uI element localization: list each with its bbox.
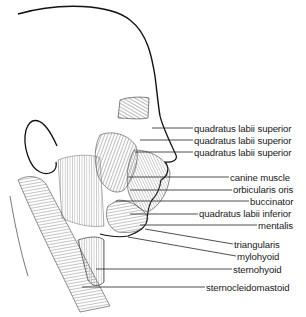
label-quadratus-labii-superior-1: quadratus labii superior	[194, 123, 291, 134]
label-quadratus-labii-inferior: quadratus labii inferior	[199, 208, 291, 219]
label-mylohyoid: mylohyoid	[237, 251, 279, 262]
label-quadratus-labii-superior-3: quadratus labii superior	[194, 147, 291, 158]
label-canine-muscle: canine muscle	[230, 172, 290, 183]
label-orbicularis-oris: orbicularis oris	[233, 184, 293, 195]
label-buccinator: buccinator	[250, 196, 293, 207]
label-sternohyoid: sternohyoid	[233, 264, 282, 275]
lip-muscles	[127, 150, 170, 212]
label-mentalis: mentalis	[258, 220, 293, 231]
ear-outline	[25, 121, 57, 174]
neck-fibers	[58, 155, 104, 226]
back-neck	[10, 196, 28, 276]
label-quadratus-labii-superior-2: quadratus labii superior	[194, 135, 291, 146]
orbital-patch	[118, 97, 149, 119]
label-triangularis: triangularis	[234, 239, 280, 250]
label-sternocleidomastoid: sternocleidomastoid	[206, 282, 289, 293]
anatomy-figure: quadratus labii superior quadratus labii…	[0, 0, 306, 317]
